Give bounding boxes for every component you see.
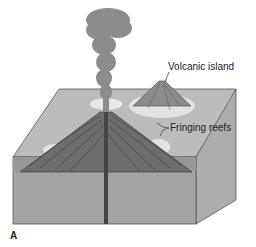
label-fringing-reefs: Fringing reefs <box>170 123 231 133</box>
label-volcanic-island: Volcanic island <box>168 62 234 72</box>
panel-label: A <box>10 231 17 241</box>
magma-conduit <box>104 112 108 224</box>
leader-volcanic-island <box>165 72 169 82</box>
volcanic-island-diagram: Volcanic island Fringing reefs A <box>0 0 256 247</box>
